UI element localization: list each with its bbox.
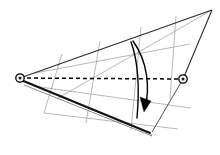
left-pivot-dot <box>19 77 22 80</box>
figure-root <box>0 0 220 155</box>
paper-faces <box>20 10 212 133</box>
right-pivot-dot <box>182 78 185 81</box>
lower-face <box>20 78 183 133</box>
right-pivot-marker <box>179 75 187 83</box>
left-pivot-marker <box>16 74 24 82</box>
fold-diagram-svg <box>0 0 220 155</box>
